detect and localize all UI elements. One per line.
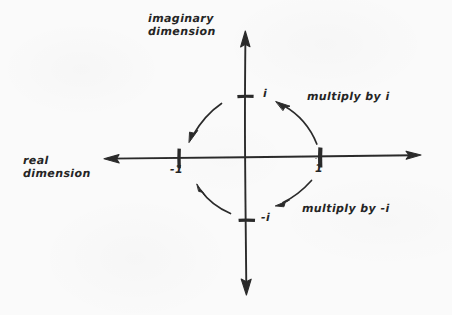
tick-label-negative-one: -1: [170, 164, 183, 177]
arc-i-to-neg-one: [189, 104, 221, 143]
annotation-multiply-by-negative-i: multiply by -i: [302, 203, 390, 216]
arc-one-to-neg-i-arrowhead: [276, 200, 290, 206]
imaginary-axis: [241, 31, 252, 295]
annotation-multiply-by-i: multiply by i: [307, 91, 390, 104]
arc-one-to-i: [276, 102, 317, 144]
imaginary-axis-bottom-arrowhead: [241, 279, 251, 295]
imaginary-axis-top-arrowhead: [241, 31, 250, 47]
tick-label-i: i: [263, 88, 267, 101]
real-axis-left-arrowhead: [104, 155, 119, 163]
arc-i-to-neg-one-arrowhead: [189, 130, 198, 142]
arc-neg-i-to-neg-one-arrowhead: [197, 184, 205, 196]
tick-label-negative-i: -i: [261, 212, 270, 225]
arc-neg-i-to-neg-one: [197, 184, 231, 213]
complex-plane-diagram: imaginary dimension real dimension multi…: [0, 0, 452, 315]
imaginary-axis-label: imaginary dimension: [148, 13, 216, 39]
real-axis: [104, 151, 421, 163]
real-axis-label: real dimension: [23, 155, 91, 181]
tick-label-one: 1: [315, 163, 323, 176]
